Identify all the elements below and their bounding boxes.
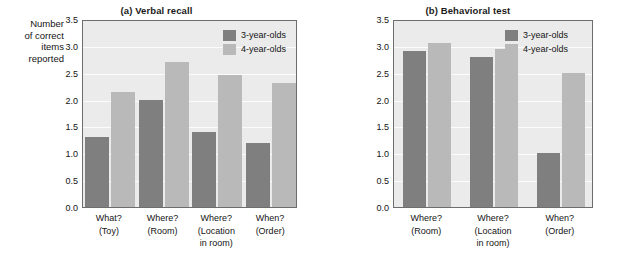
panel-b-title-text: Behavioral test bbox=[438, 5, 510, 16]
panel-behavioral-test: (b) Behavioral test Number of correct se… bbox=[313, 0, 623, 265]
x-axis-label: Where?(Room) bbox=[136, 212, 190, 237]
panel-a-ytick-1.0: 1.0 bbox=[56, 150, 78, 159]
panel-a-ytick-2.5: 2.5 bbox=[56, 69, 78, 78]
bar bbox=[428, 43, 451, 207]
legend-item: 4-year-olds bbox=[505, 42, 568, 56]
panel-a-ytick-3.5: 3.5 bbox=[56, 16, 78, 25]
x-axis-label: When?(Order) bbox=[243, 212, 297, 237]
panel-a-ytick-0.0: 0.0 bbox=[56, 204, 78, 213]
legend-item: 3-year-olds bbox=[505, 28, 568, 42]
panel-b-title: (b) Behavioral test bbox=[313, 5, 623, 16]
x-axis-label-line-3: in room) bbox=[190, 237, 244, 250]
legend-swatch-icon bbox=[223, 30, 236, 41]
panel-a-ytick-3.0: 3.0 bbox=[56, 42, 78, 51]
panel-b-ytick-0.5: 0.5 bbox=[367, 177, 389, 186]
bar bbox=[85, 137, 109, 207]
x-axis-label-line-1: Where? bbox=[136, 212, 190, 225]
panel-b-ytick-2.0: 2.0 bbox=[367, 96, 389, 105]
legend-label: 4-year-olds bbox=[523, 44, 568, 54]
panel-a-y-axis-ticks: 3.53.02.52.01.51.00.50.0 bbox=[56, 20, 78, 208]
bar bbox=[218, 75, 242, 207]
x-axis-label: Where?(Locationin room) bbox=[460, 212, 527, 250]
figure-container: (a) Verbal recall Number of correct item… bbox=[0, 0, 623, 265]
x-axis-label-line-2: (Toy) bbox=[82, 225, 136, 238]
panel-a-y-axis-title: Number of correct items reported bbox=[2, 18, 64, 64]
gridline bbox=[83, 74, 296, 75]
panel-b-ytick-3.0: 3.0 bbox=[367, 42, 389, 51]
panel-a-title: (a) Verbal recall bbox=[0, 5, 313, 16]
bar bbox=[562, 73, 585, 207]
gridline bbox=[83, 20, 296, 21]
bar bbox=[246, 143, 270, 207]
panel-a-ytick-1.5: 1.5 bbox=[56, 123, 78, 132]
legend-item: 3-year-olds bbox=[223, 28, 286, 42]
panel-b-ytick-0.0: 0.0 bbox=[367, 204, 389, 213]
bar bbox=[192, 132, 216, 207]
legend-label: 4-year-olds bbox=[241, 44, 286, 54]
x-axis-label: What?(Toy) bbox=[82, 212, 136, 237]
bar bbox=[495, 49, 518, 207]
bar bbox=[403, 51, 426, 207]
bar bbox=[111, 92, 135, 207]
x-axis-label-line-3: in room) bbox=[460, 237, 527, 250]
x-axis-label-line-2: (Order) bbox=[243, 225, 297, 238]
legend-swatch-icon bbox=[505, 44, 518, 55]
bar bbox=[165, 62, 189, 207]
x-axis-label-line-1: What? bbox=[82, 212, 136, 225]
panel-a-legend: 3-year-olds4-year-olds bbox=[223, 28, 286, 56]
legend-swatch-icon bbox=[223, 44, 236, 55]
x-axis-label-line-1: When? bbox=[526, 212, 593, 225]
panel-a-title-text: Verbal recall bbox=[132, 5, 192, 16]
x-axis-label-line-1: When? bbox=[243, 212, 297, 225]
x-axis-label-line-2: (Order) bbox=[526, 225, 593, 238]
legend-item: 4-year-olds bbox=[223, 42, 286, 56]
x-axis-label-line-1: Where? bbox=[190, 212, 244, 225]
gridline bbox=[394, 20, 592, 21]
bar bbox=[139, 100, 163, 207]
x-axis-label: Where?(Locationin room) bbox=[190, 212, 244, 250]
legend-label: 3-year-olds bbox=[523, 30, 568, 40]
x-axis-label: When?(Order) bbox=[526, 212, 593, 237]
x-axis-label-line-2: (Room) bbox=[393, 225, 460, 238]
panel-b-ytick-2.5: 2.5 bbox=[367, 69, 389, 78]
x-axis-label-line-1: Where? bbox=[393, 212, 460, 225]
panel-b-ytick-3.5: 3.5 bbox=[367, 16, 389, 25]
x-axis-label-line-2: (Location bbox=[190, 225, 244, 238]
panel-b-y-axis-ticks: 3.53.02.52.01.51.00.50.0 bbox=[367, 20, 389, 208]
bar bbox=[470, 57, 493, 207]
panel-verbal-recall: (a) Verbal recall Number of correct item… bbox=[0, 0, 313, 265]
panel-a-ytick-0.5: 0.5 bbox=[56, 177, 78, 186]
bar bbox=[537, 153, 560, 207]
panel-b-title-tag: (b) bbox=[426, 5, 438, 16]
x-axis-label-line-1: Where? bbox=[460, 212, 527, 225]
panel-a-title-tag: (a) bbox=[121, 5, 133, 16]
x-axis-label: Where?(Room) bbox=[393, 212, 460, 237]
panel-a-ytick-2.0: 2.0 bbox=[56, 96, 78, 105]
x-axis-label-line-2: (Room) bbox=[136, 225, 190, 238]
panel-b-legend: 3-year-olds4-year-olds bbox=[505, 28, 568, 56]
legend-label: 3-year-olds bbox=[241, 30, 286, 40]
panel-b-ytick-1.5: 1.5 bbox=[367, 123, 389, 132]
bar bbox=[272, 83, 296, 207]
legend-swatch-icon bbox=[505, 30, 518, 41]
panel-b-ytick-1.0: 1.0 bbox=[367, 150, 389, 159]
x-axis-label-line-2: (Location bbox=[460, 225, 527, 238]
